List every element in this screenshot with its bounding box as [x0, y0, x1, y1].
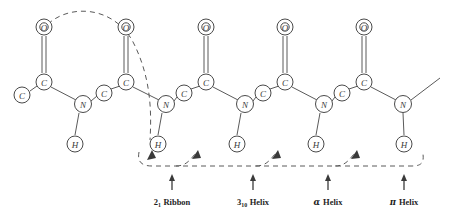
caption-alpha-main: Helix [323, 197, 343, 207]
carbonyl-carbon-1: C [36, 74, 52, 90]
alpha-carbon-3: C [255, 85, 271, 101]
oxygen-1: O [36, 19, 52, 35]
caption-2-1-ribbon: 21Ribbon [154, 197, 191, 208]
caption-group: 21Ribbon 310Helix αHelix πHelix [154, 197, 419, 208]
carbonyl-carbon-2-label: C [123, 78, 130, 88]
carbonyl-carbon-5: C [356, 74, 372, 90]
hbond-2-1-ribbon [48, 11, 151, 140]
chain-bond-ca4-c5 [349, 86, 358, 89]
hbond-riser-pi [335, 154, 354, 166]
chain-bond-ca2-c3 [191, 86, 200, 89]
hydrogen-1: H [67, 136, 83, 152]
nitrogen-3-label: N [241, 100, 249, 110]
caption-pi-helix: πHelix [389, 197, 419, 207]
carbonyl-carbon-1-label: C [41, 78, 48, 88]
alpha-carbon-4: C [334, 85, 350, 101]
hydrogen-4: H [308, 136, 324, 152]
caption-pi-greek: π [389, 197, 397, 207]
nitrogen-5-label: N [399, 100, 407, 110]
alpha-carbon-4-label: C [339, 89, 346, 99]
chain-bond-ca1-c2 [111, 86, 120, 89]
caption-arrow-pi-helix [401, 174, 407, 190]
nitrogen-1-label: N [79, 100, 87, 110]
arrowhead-alpha-helix [272, 150, 281, 159]
hydrogen-5: H [396, 136, 412, 152]
backbone-bonds [30, 36, 440, 135]
caption-3-10-subscript: 10 [241, 202, 247, 208]
caption-arrow-3-10-helix [250, 174, 256, 190]
chain-bond-n5-tail [411, 78, 440, 100]
nitrogen-4-label: N [320, 100, 328, 110]
carbonyl-carbon-3-label: C [203, 78, 210, 88]
nitrogen-5: N [395, 96, 412, 113]
main-chain-bond-group [30, 78, 440, 101]
chain-bond-c3-n3 [213, 87, 238, 100]
chain-bond-ca0-c1 [30, 86, 37, 91]
polypeptide-hydrogen-bond-figure: O O O O O [0, 0, 452, 215]
nh-bond-2 [158, 113, 162, 135]
caption-alpha-helix: αHelix [314, 197, 344, 207]
chain-bond-n4-ca4 [332, 97, 335, 101]
hydrogen-3: H [229, 136, 245, 152]
alpha-carbon-0: C [14, 87, 30, 103]
nitrogen-1: N [75, 96, 92, 113]
oxygen-2: O [118, 19, 134, 35]
n-h-bond-group [75, 113, 404, 135]
oxygen-5-label: O [361, 23, 368, 33]
oxygen-4-label: O [282, 23, 289, 33]
hydrogen-atom-group: H H H H H [67, 136, 412, 152]
nh-bond-1 [75, 113, 79, 135]
carbonyl-carbon-4-label: C [282, 78, 289, 88]
hydrogen-4-label: H [312, 140, 320, 150]
nitrogen-4: N [316, 96, 333, 113]
chain-bond-n3-ca3 [253, 97, 256, 101]
nh-bond-3 [237, 113, 241, 135]
nh-bond-5 [403, 113, 404, 135]
nitrogen-2-label: N [162, 100, 170, 110]
chain-bond-c4-n4 [292, 87, 317, 100]
figure-canvas: O O O O O [0, 0, 452, 215]
carbonyl-carbon-4: C [277, 74, 293, 90]
caption-pi-main: Helix [399, 197, 419, 207]
caption-arrow-alpha-helix [325, 174, 331, 190]
caption-arrow-head-2 [250, 174, 256, 181]
hbond-riser-3-10 [176, 154, 195, 166]
alpha-carbon-2: C [176, 85, 192, 101]
caption-arrow-head-1 [169, 174, 175, 181]
arrowhead-pi-helix [351, 150, 360, 159]
carbonyl-carbon-2: C [118, 74, 134, 90]
alpha-carbon-0-label: C [19, 91, 26, 101]
chain-bond-c5-n5 [371, 87, 396, 100]
hydrogen-1-label: H [71, 140, 79, 150]
oxygen-atom-group: O O O O O [36, 19, 372, 35]
hbond-riser-alpha [256, 154, 275, 166]
hbond-baseline [139, 152, 424, 166]
caption-arrow-2-1-ribbon [169, 174, 175, 190]
caption-arrow-group [169, 174, 407, 190]
carbonyl-carbon-group: C C C C C [36, 74, 372, 90]
arrowhead-3-10-helix [192, 150, 201, 159]
caption-2-1-main: Ribbon [163, 197, 190, 207]
alpha-carbon-1: C [96, 85, 112, 101]
chain-bond-n1-ca1 [91, 96, 97, 101]
carbonyl-carbon-3: C [198, 74, 214, 90]
caption-3-10-helix: 310Helix [237, 197, 270, 208]
carbonyl-carbon-5-label: C [361, 78, 368, 88]
alpha-carbon-3-label: C [260, 89, 267, 99]
chain-bond-n2-ca2 [174, 97, 177, 101]
double-bond-group [42, 36, 366, 73]
oxygen-3-label: O [203, 23, 210, 33]
caption-arrow-head-3 [325, 174, 331, 181]
oxygen-3: O [198, 19, 214, 35]
alpha-carbon-2-label: C [181, 89, 188, 99]
hydrogen-2-label: H [154, 140, 162, 150]
oxygen-4: O [277, 19, 293, 35]
nitrogen-2: N [158, 96, 175, 113]
caption-arrow-head-4 [401, 174, 407, 181]
oxygen-1-label: O [41, 23, 48, 33]
chain-bond-c2-n2 [133, 87, 159, 100]
hbond-arrowhead-group [147, 150, 360, 160]
caption-3-10-main: Helix [250, 197, 270, 207]
chain-bond-c1-n1 [51, 87, 76, 100]
chain-bond-ca3-c4 [270, 86, 279, 89]
